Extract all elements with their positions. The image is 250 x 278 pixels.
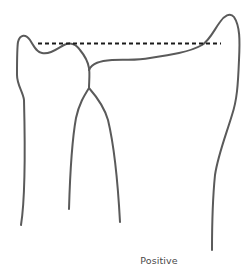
diagram-caption: Positive [134, 255, 184, 266]
diagram-canvas [0, 0, 250, 278]
left-bone-outline [17, 36, 89, 225]
left-leg-outline [69, 88, 89, 209]
right-leg-outline [89, 88, 120, 222]
